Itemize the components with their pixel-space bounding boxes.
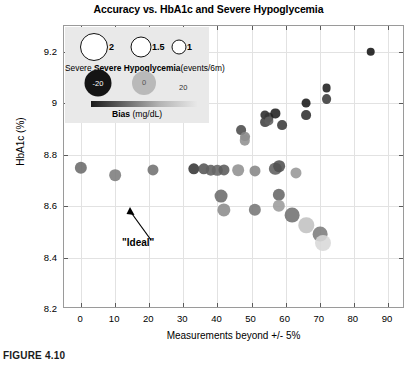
plot-area: "Ideal" 21.51 Severe Severe Hypoglycemia… — [63, 25, 404, 308]
scatter-point — [218, 203, 231, 216]
x-tick-label: 80 — [338, 313, 368, 324]
x-axis-tick — [217, 26, 218, 30]
scatter-point — [240, 135, 250, 145]
x-tick-label: 60 — [270, 313, 300, 324]
x-axis-tick — [81, 303, 82, 307]
legend-bias-units: (mg/dL) — [132, 109, 162, 119]
gridline-vertical — [388, 26, 389, 307]
legend-size-value: 1.5 — [152, 42, 165, 52]
legend-bias-term: Bias — [112, 109, 130, 119]
figure-caption: FIGURE 4.10 — [3, 350, 65, 361]
legend-bias-colorbar — [91, 101, 197, 107]
x-axis-tick — [388, 26, 389, 30]
ideal-annotation-label: "Ideal" — [122, 237, 154, 248]
legend-bias-mid-swatch: 0 — [132, 71, 156, 95]
legend-size-value: 2 — [109, 42, 114, 52]
y-tick-label: 9 — [27, 97, 57, 108]
y-axis-tick — [399, 103, 403, 104]
scatter-point — [271, 109, 280, 118]
scatter-point — [219, 165, 230, 176]
x-tick-label: 40 — [201, 313, 231, 324]
chart-legend: 21.51 Severe Severe Hypoglycemia(events/… — [65, 27, 209, 123]
y-tick-label: 9.2 — [27, 45, 57, 56]
chart-title: Accuracy vs. HbA1c and Severe Hypoglycem… — [0, 3, 417, 15]
x-axis-tick — [183, 303, 184, 307]
scatter-point — [249, 204, 261, 216]
y-tick-label: 8.4 — [27, 251, 57, 262]
x-axis-tick — [354, 303, 355, 307]
x-tick-label: 50 — [236, 313, 266, 324]
x-axis-tick — [286, 303, 287, 307]
scatter-point — [264, 117, 273, 126]
scatter-point — [301, 110, 311, 120]
scatter-point — [322, 83, 331, 92]
legend-bias-min-swatch: -20 — [85, 70, 112, 97]
y-axis-tick — [64, 206, 68, 207]
gridline-horizontal — [64, 258, 403, 259]
scatter-point — [298, 218, 313, 233]
scatter-point — [214, 189, 227, 202]
legend-bias-min-label: -20 — [93, 79, 104, 87]
x-tick-label: 0 — [65, 313, 95, 324]
x-tick-label: 10 — [99, 313, 129, 324]
gridline-vertical — [354, 26, 355, 307]
y-tick-label: 8.6 — [27, 200, 57, 211]
scatter-point — [322, 94, 332, 104]
legend-size-circle — [131, 37, 152, 58]
scatter-point — [109, 169, 121, 181]
y-axis-tick — [399, 206, 403, 207]
x-axis-tick — [320, 303, 321, 307]
scatter-point — [290, 167, 301, 178]
x-tick-label: 20 — [133, 313, 163, 324]
y-tick-label: 8.8 — [27, 148, 57, 159]
y-axis-tick — [399, 52, 403, 53]
x-tick-label: 90 — [372, 313, 402, 324]
y-axis-label: HbA1c (%) — [15, 92, 26, 192]
y-axis-tick — [64, 155, 68, 156]
x-tick-label: 30 — [167, 313, 197, 324]
scatter-point — [147, 165, 158, 176]
x-axis-tick — [217, 303, 218, 307]
scatter-point — [315, 235, 331, 251]
figure-container: Accuracy vs. HbA1c and Severe Hypoglycem… — [0, 0, 417, 368]
x-axis-tick — [252, 303, 253, 307]
x-axis-tick — [320, 26, 321, 30]
x-axis-tick — [388, 303, 389, 307]
x-axis-tick — [354, 26, 355, 30]
scatter-point — [75, 161, 87, 173]
gridline-vertical — [286, 26, 287, 307]
scatter-point — [249, 166, 260, 177]
legend-bias-max-label: 20 — [179, 83, 187, 92]
x-axis-tick — [286, 26, 287, 30]
legend-size-units: (events/6m) — [180, 63, 224, 73]
y-axis-tick — [64, 258, 68, 259]
y-axis-tick — [399, 155, 403, 156]
scatter-point — [273, 188, 285, 200]
scatter-point — [232, 164, 244, 176]
scatter-point — [285, 208, 300, 223]
y-axis-tick — [399, 258, 403, 259]
scatter-point — [367, 47, 376, 56]
legend-size-circle — [172, 40, 187, 55]
scatter-point — [273, 200, 285, 212]
legend-size-caption: Severe Severe Hypoglycemia(events/6m) — [65, 63, 209, 73]
scatter-point — [302, 99, 311, 108]
gridline-vertical — [320, 26, 321, 307]
x-axis-tick — [115, 303, 116, 307]
legend-bias-mid-label: 0 — [142, 79, 146, 87]
gridline-horizontal — [64, 206, 403, 207]
x-axis-label: Measurements beyond +/- 5% — [63, 330, 404, 341]
legend-size-term: Severe Hypoglycemia — [94, 63, 181, 73]
gridline-horizontal — [64, 155, 403, 156]
scatter-point — [273, 160, 285, 172]
y-tick-label: 8.2 — [27, 303, 57, 314]
legend-size-circle — [80, 33, 108, 61]
scatter-point — [277, 120, 287, 130]
legend-bias-caption: Bias (mg/dL) — [65, 109, 209, 119]
x-tick-label: 70 — [304, 313, 334, 324]
legend-size-value: 1 — [187, 42, 192, 52]
x-axis-tick — [149, 303, 150, 307]
x-axis-tick — [252, 26, 253, 30]
